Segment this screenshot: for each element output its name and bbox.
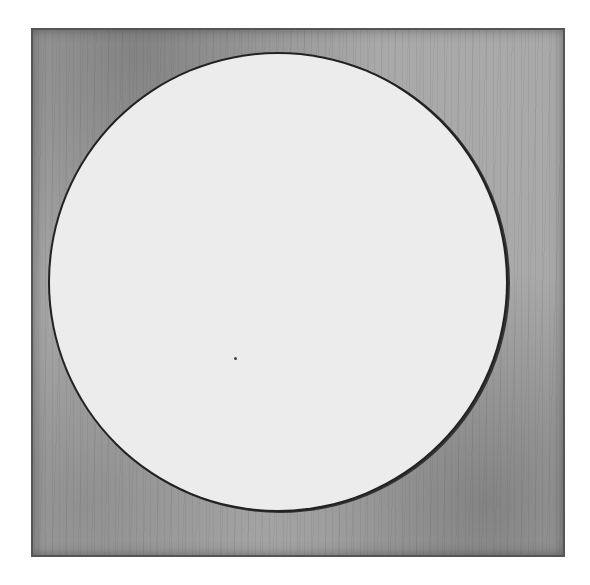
inscribed-circle <box>50 54 506 510</box>
ink-speck <box>234 357 237 360</box>
